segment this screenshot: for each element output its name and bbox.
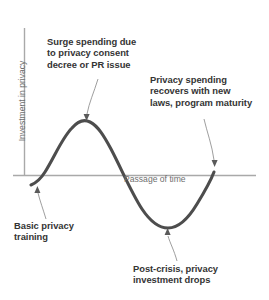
privacy-investment-chart: Surge spending due to privacy consent de… (0, 0, 269, 300)
y-axis-label: Investment in privacy (17, 45, 27, 157)
leader-line-surge (87, 79, 98, 114)
leader-line-recovers (204, 119, 214, 160)
arrowhead-recovers (212, 160, 218, 167)
annotation-surge-spending: Surge spending due to privacy consent de… (47, 36, 153, 70)
leader-line-basic (38, 193, 46, 219)
annotation-post-crisis-drop: Post-crisis, privacy investment drops (133, 263, 253, 286)
leader-line-postcrisis (168, 236, 177, 261)
annotation-privacy-spending-recovers: Privacy spending recovers with new laws,… (150, 74, 269, 108)
x-axis-label: Passage of time (124, 174, 186, 184)
arrowhead-basic (34, 186, 40, 193)
annotation-basic-privacy-training: Basic privacy training (14, 220, 109, 243)
investment-curve (31, 121, 214, 228)
